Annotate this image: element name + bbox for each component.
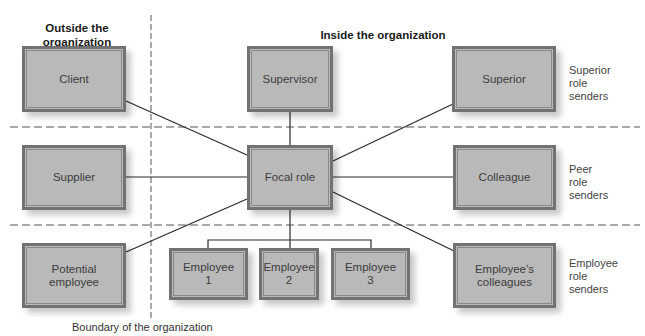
potential-employee-box: Potential employee bbox=[22, 243, 126, 308]
outside-organization-heading: Outside the organization bbox=[28, 21, 126, 49]
client-box: Client bbox=[22, 46, 126, 112]
peer-role-senders-label: Peer role senders bbox=[569, 163, 608, 202]
role-set-diagram: Outside the organization Inside the orga… bbox=[0, 0, 645, 336]
superior-box: Superior bbox=[452, 46, 556, 112]
potential-employee-label: Potential employee bbox=[49, 263, 99, 289]
superior-to-focal-line bbox=[333, 104, 453, 161]
employees-colleagues-label: Employee’s colleagues bbox=[475, 263, 534, 289]
employee-1-label: Employee 1 bbox=[183, 261, 234, 287]
superior-role-senders-label: Superior role senders bbox=[569, 64, 611, 103]
boundary-caption: Boundary of the organization bbox=[72, 321, 213, 333]
employee-1-box: Employee 1 bbox=[169, 248, 248, 300]
supplier-box: Supplier bbox=[22, 145, 126, 210]
supervisor-box: Supervisor bbox=[247, 46, 333, 112]
supplier-label: Supplier bbox=[53, 171, 95, 184]
colleague-label: Colleague bbox=[479, 171, 531, 184]
employee-2-box: Employee 2 bbox=[259, 248, 319, 300]
employee-role-senders-label: Employee role senders bbox=[569, 257, 618, 296]
superior-label: Superior bbox=[482, 73, 525, 86]
employee-3-label: Employee 3 bbox=[345, 261, 396, 287]
employees-colleagues-to-focal-line bbox=[333, 192, 454, 251]
employee-3-box: Employee 3 bbox=[331, 248, 410, 300]
employee-2-label: Employee 2 bbox=[263, 261, 314, 287]
focal-role-label: Focal role bbox=[265, 171, 316, 184]
colleague-box: Colleague bbox=[453, 145, 556, 210]
supervisor-label: Supervisor bbox=[263, 73, 318, 86]
client-label: Client bbox=[59, 73, 88, 86]
employees-colleagues-box: Employee’s colleagues bbox=[453, 243, 556, 308]
client-to-focal-line bbox=[126, 101, 247, 155]
inside-organization-heading: Inside the organization bbox=[318, 28, 448, 42]
focal-role-box: Focal role bbox=[247, 145, 333, 210]
